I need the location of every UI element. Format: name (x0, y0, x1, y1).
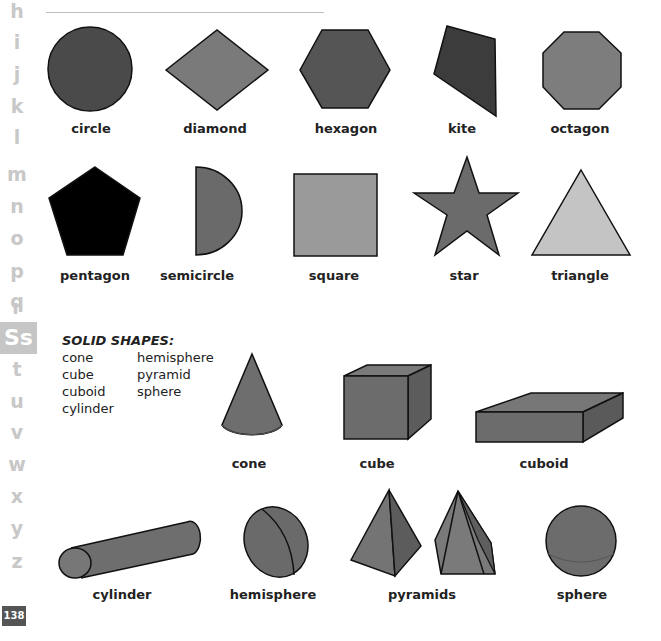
semicircle-shape (194, 165, 246, 259)
index-letter-k[interactable]: k (0, 95, 34, 117)
solid-shapes-heading: SOLID SHAPES: (62, 333, 174, 348)
index-letter-z[interactable]: z (0, 550, 34, 572)
label-hemisphere: hemisphere (213, 587, 333, 602)
top-divider (46, 12, 324, 13)
alphabet-index: h i j k l m n o p q r Ss t u v w x y z 1… (0, 0, 40, 641)
hemisphere-shape (242, 503, 312, 581)
label-pyramids: pyramids (362, 587, 482, 602)
label-cylinder: cylinder (62, 587, 182, 602)
cylinder-shape (55, 518, 203, 582)
label-square: square (274, 268, 394, 283)
index-letter-j[interactable]: j (0, 63, 34, 85)
index-letter-x[interactable]: x (0, 485, 34, 507)
index-letter-o[interactable]: o (0, 227, 34, 249)
diamond-shape (164, 28, 272, 114)
label-circle: circle (31, 121, 151, 136)
index-letter-n[interactable]: n (0, 195, 34, 217)
index-letter-s-active[interactable]: Ss (0, 322, 37, 354)
list-item: sphere (137, 383, 214, 400)
index-letter-v[interactable]: v (0, 421, 34, 443)
index-letter-m[interactable]: m (0, 163, 34, 185)
cuboid-shape (474, 391, 626, 445)
label-cuboid: cuboid (484, 456, 604, 471)
index-letter-h[interactable]: h (0, 0, 34, 22)
index-letter-l[interactable]: l (0, 126, 34, 148)
index-letter-y[interactable]: y (0, 517, 34, 539)
list-item: cone (62, 349, 114, 366)
cube-shape (342, 363, 434, 445)
label-sphere: sphere (522, 587, 642, 602)
circle-shape (46, 24, 136, 114)
octagon-shape (541, 30, 625, 112)
list-item: cuboid (62, 383, 114, 400)
label-star: star (404, 268, 524, 283)
index-letter-i[interactable]: i (0, 31, 34, 53)
label-hexagon: hexagon (286, 121, 406, 136)
label-cone: cone (189, 456, 309, 471)
pyramids-shape (350, 488, 500, 580)
hexagon-shape (298, 28, 394, 114)
list-item: cube (62, 366, 114, 383)
solid-shapes-list-col1: cone cube cuboid cylinder (62, 349, 114, 417)
pentagon-shape (47, 165, 143, 259)
list-item: cylinder (62, 400, 114, 417)
sphere-shape (544, 504, 620, 580)
label-octagon: octagon (520, 121, 640, 136)
label-diamond: diamond (155, 121, 275, 136)
page-number: 138 (2, 606, 26, 626)
label-semicircle: semicircle (137, 268, 257, 283)
label-cube: cube (317, 456, 437, 471)
index-letter-r[interactable]: r (0, 296, 34, 318)
list-item: pyramid (137, 366, 214, 383)
kite-shape (432, 24, 500, 120)
cone-shape (218, 352, 286, 446)
index-letter-w[interactable]: w (0, 453, 34, 475)
label-kite: kite (402, 121, 522, 136)
star-shape (412, 155, 522, 259)
triangle-shape (530, 168, 632, 258)
index-letter-t[interactable]: t (0, 358, 34, 380)
list-item: hemisphere (137, 349, 214, 366)
index-letter-u[interactable]: u (0, 390, 34, 412)
solid-shapes-list-col2: hemisphere pyramid sphere (137, 349, 214, 400)
square-shape (292, 172, 380, 258)
label-triangle: triangle (520, 268, 640, 283)
index-letter-p[interactable]: p (0, 260, 34, 282)
